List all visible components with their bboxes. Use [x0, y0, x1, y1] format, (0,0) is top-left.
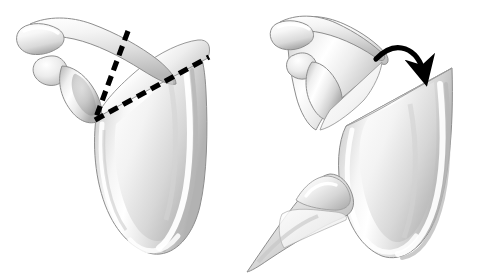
figure-canvas: Scapular osteotomy: wedge resection of t… [0, 0, 482, 279]
scapular-osteotomy-figure: Scapular osteotomy: wedge resection of t… [0, 0, 482, 279]
